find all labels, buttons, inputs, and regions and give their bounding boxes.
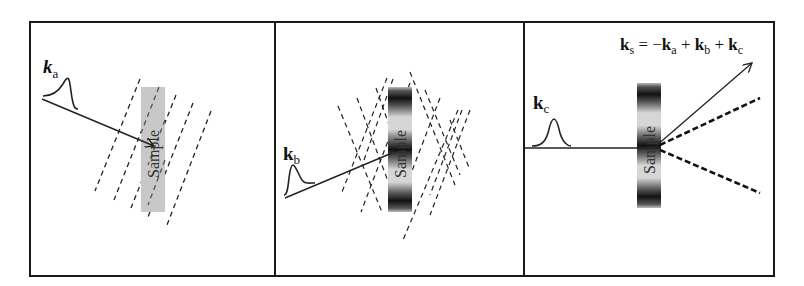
sample-label-b: Sample (392, 130, 410, 178)
panel-a: Sample ka (42, 56, 211, 225)
sample-label-a: Sample (145, 130, 163, 178)
beam-label-b: kb (283, 143, 300, 167)
sample-label-c: Sample (641, 126, 659, 174)
beam-label-a: ka (43, 56, 59, 81)
beam-arrow-a (42, 99, 154, 146)
wavevector-equation: ks = −ka + kb + kc (620, 35, 743, 57)
pulse-a (43, 78, 78, 109)
dashed-beam-upper (660, 98, 760, 145)
signal-arrow-ks (656, 63, 752, 146)
pulse-b (284, 165, 315, 195)
dashed-beam-lower (660, 150, 760, 193)
beam-label-c: kc (533, 92, 550, 116)
four-wave-mixing-diagram: Sample ka Sample (0, 0, 804, 286)
panel-b: Sample kb (283, 72, 470, 240)
panel-c: Sample kc ks = −ka + kb + kc (524, 35, 760, 208)
beam-line-b (285, 153, 392, 198)
pulse-c (532, 119, 571, 146)
